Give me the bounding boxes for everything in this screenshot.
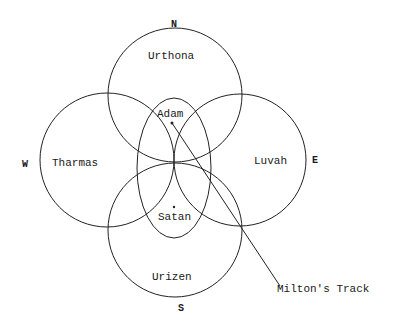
compass-west: W [22,159,28,170]
urthona-label: Urthona [148,50,195,62]
compass-south: S [178,303,184,314]
adam-dot [171,122,174,125]
miltons-track-label: Milton's Track [277,283,370,295]
compass-east: E [312,155,318,166]
miltons-track-line [172,123,280,286]
adam-label: Adam [157,108,184,120]
satan-dot [173,206,175,208]
four-zoas-diagram: N S E W Urthona Tharmas Luvah Urizen Ada… [0,0,394,326]
urizen-label: Urizen [152,271,192,283]
luvah-label: Luvah [254,155,287,167]
compass-north: N [171,19,177,30]
urthona-circle [108,28,242,162]
tharmas-label: Tharmas [52,157,98,169]
satan-label: Satan [158,211,191,223]
diagram: N S E W Urthona Tharmas Luvah Urizen Ada… [0,0,394,326]
